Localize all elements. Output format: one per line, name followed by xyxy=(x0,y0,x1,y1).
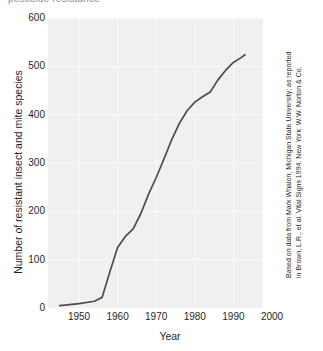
xtick-label-1980: 1980 xyxy=(178,311,212,323)
chart-figure: pesticide resistance 600 500 400 300 200… xyxy=(0,0,323,351)
xtick-label-1950: 1950 xyxy=(62,311,96,323)
ytick-label-500: 500 xyxy=(5,60,45,72)
xtick-label-1970: 1970 xyxy=(139,311,173,323)
ytick-label-300: 300 xyxy=(5,157,45,169)
xtick-label-1960: 1960 xyxy=(101,311,135,323)
source-note-line-1: Based on data from Mark Whalon, Michigan… xyxy=(284,30,294,278)
x-axis-title: Year xyxy=(150,330,190,342)
ytick-label-200: 200 xyxy=(5,205,45,217)
ytick-label-100: 100 xyxy=(5,254,45,266)
xtick-label-2000: 2000 xyxy=(255,311,289,323)
ytick-label-600: 600 xyxy=(5,12,45,24)
source-note: Based on data from Mark Whalon, Michigan… xyxy=(284,30,304,278)
xtick-label-1990: 1990 xyxy=(216,311,250,323)
source-note-line-2: in Brown, L.R., et al. Vital Signs 1994.… xyxy=(294,30,304,278)
plot-canvas xyxy=(0,0,323,351)
ytick-label-0: 0 xyxy=(5,302,45,314)
ytick-label-400: 400 xyxy=(5,109,45,121)
y-axis-title: Number of resistant insect and mite spec… xyxy=(12,52,25,292)
